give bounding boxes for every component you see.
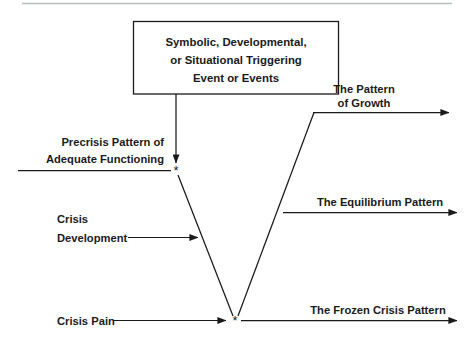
precrisis-label-line-1: Precrisis Pattern of — [61, 136, 164, 148]
trigger-box-line-2: or Situational Triggering — [170, 54, 302, 66]
crisis-pattern-diagram: * * Symbolic, Developmental, or Situatio… — [0, 0, 474, 342]
lower-vertex-asterisk: * — [232, 313, 237, 328]
growth-outcome-label-line-2: of Growth — [338, 97, 391, 109]
upper-vertex-asterisk: * — [173, 163, 178, 178]
crisis-development-label-line-2: Development — [57, 232, 128, 244]
crisis-pain-label: Crisis Pain — [57, 315, 115, 327]
crisis-development-label-line-1: Crisis — [57, 213, 88, 225]
growth-outcome-label-line-1: The Pattern — [333, 83, 395, 95]
crisis-descent-line — [178, 175, 233, 316]
equilibrium-outcome-label: The Equilibrium Pattern — [317, 196, 443, 208]
diagram-canvas: * * Symbolic, Developmental, or Situatio… — [0, 0, 474, 342]
trigger-box-line-3: Event or Events — [193, 72, 279, 84]
precrisis-label-line-2: Adequate Functioning — [46, 153, 164, 165]
trigger-box-line-1: Symbolic, Developmental, — [165, 36, 306, 48]
frozen-crisis-outcome-label: The Frozen Crisis Pattern — [310, 304, 446, 316]
crisis-ascent-line — [238, 113, 314, 317]
